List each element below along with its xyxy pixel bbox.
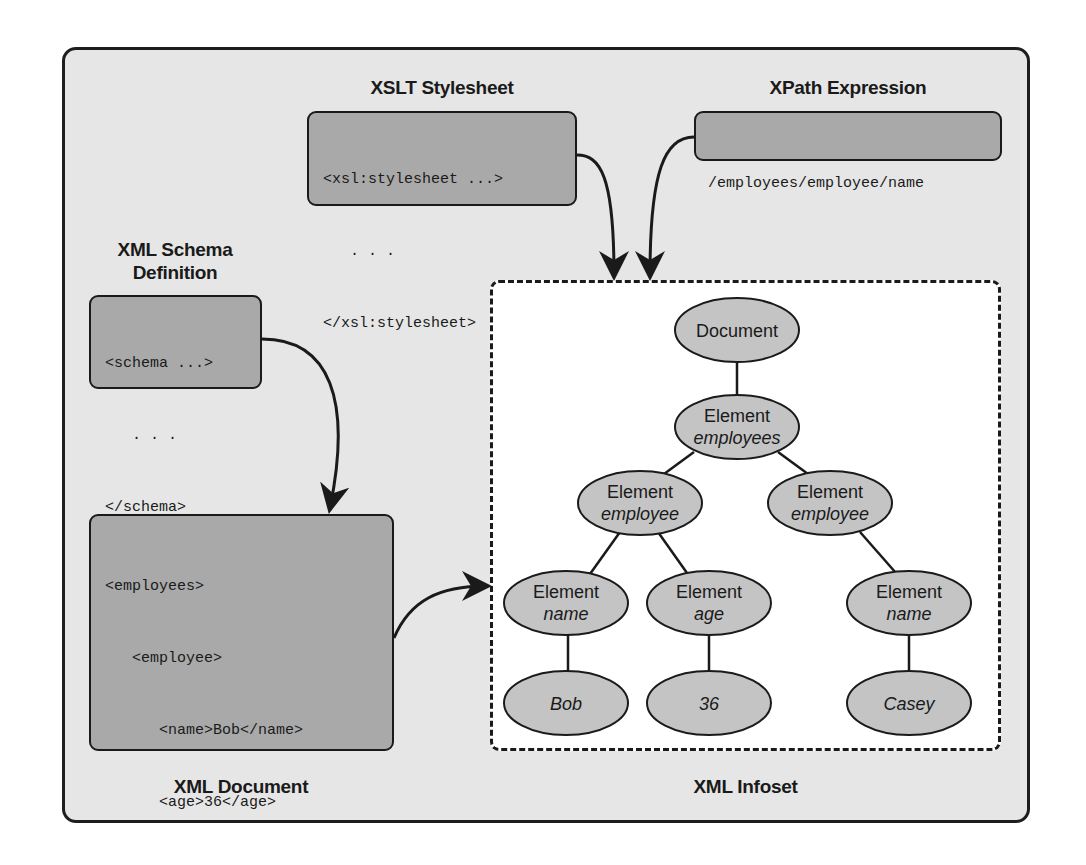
xml-schema-label-line1: XML Schema [75, 238, 275, 261]
xpath-expression-label: XPath Expression [694, 76, 1002, 99]
xpath-expression-box: /employees/employee/name [694, 111, 1002, 161]
code-line: . . . [323, 240, 575, 264]
xml-schema-box: <schema ...> . . . </schema> [89, 295, 262, 389]
code-line: <employees> [105, 575, 392, 599]
code-line: . . . [105, 424, 260, 448]
xslt-stylesheet-box: <xsl:stylesheet ...> . . . </xsl:stylesh… [307, 111, 577, 206]
code-line: <name>Bob</name> [105, 719, 392, 743]
xml-schema-label-line2: Definition [75, 261, 275, 284]
xslt-stylesheet-label: XSLT Stylesheet [307, 76, 577, 99]
xml-infoset-label: XML Infoset [490, 775, 1001, 798]
xml-schema-label: XML Schema Definition [75, 238, 275, 284]
code-line: <age>36</age> [105, 791, 392, 815]
xpath-text: /employees/employee/name [708, 172, 1000, 196]
xml-infoset-container [490, 280, 1001, 751]
xml-document-box: <employees> <employee> <name>Bob</name> … [89, 514, 394, 751]
code-line: <employee> [105, 647, 392, 671]
code-line: <schema ...> [105, 352, 260, 376]
code-line: <xsl:stylesheet ...> [323, 168, 575, 192]
